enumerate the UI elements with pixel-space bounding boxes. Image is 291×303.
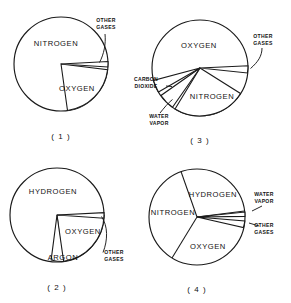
pie-3-callout-water-line1: WATER: [149, 113, 169, 119]
pie-3-leader-other-gases: [251, 48, 263, 69]
pie-4-label-nitrogen: NITROGEN: [151, 208, 195, 217]
pie-3-caption: ( 3 ): [190, 136, 210, 145]
pie-panel-1: NITROGEN OXYGEN OTHER GASES ( 1 ): [14, 17, 116, 141]
pie-2-label-argon: ARGON: [48, 253, 79, 262]
pie-2-callout-other-line2: GASES: [104, 256, 124, 262]
pie-2-label-oxygen: OXYGEN: [65, 227, 101, 236]
pie-4-callout-water-line1: WATER: [254, 191, 274, 197]
pie-4-caption: ( 4 ): [187, 285, 207, 294]
pie-1-callout-other-line2: GASES: [96, 24, 116, 30]
pie-2-callout-other-line1: OTHER: [104, 249, 123, 255]
pie-3-callout-water-line2: VAPOR: [149, 120, 168, 126]
pie-4-leader-water-vapor: [252, 206, 262, 211]
pie-3-leader-carbon-dioxide: [166, 86, 172, 87]
pie-3-callout-carbon-line2: DIOXIDE: [134, 83, 157, 89]
pie-3-callout-other-line2: GASES: [253, 40, 273, 46]
pie-1-label-nitrogen: NITROGEN: [34, 39, 78, 48]
pie-3-callout-other-line1: OTHER: [253, 33, 272, 39]
pie-2-label-hydrogen: HYDROGEN: [29, 187, 77, 196]
pie-panel-4: NITROGEN HYDROGEN OXYGEN WATER VAPOR OTH…: [149, 169, 274, 294]
pie-chart-figure: NITROGEN OXYGEN OTHER GASES ( 1 ) HYDROG…: [0, 0, 291, 303]
pie-4-label-oxygen: OXYGEN: [190, 242, 226, 251]
pie-4-label-hydrogen: HYDROGEN: [189, 190, 237, 199]
pie-3-label-nitrogen: NITROGEN: [190, 92, 234, 101]
pie-4-callout-other-line1: OTHER: [254, 222, 273, 228]
pie-2-caption: ( 2 ): [47, 283, 67, 292]
pie-1-label-oxygen: OXYGEN: [59, 84, 95, 93]
pie-1-caption: ( 1 ): [51, 132, 71, 141]
pie-panel-2: HYDROGEN OXYGEN ARGON OTHER GASES ( 2 ): [10, 168, 124, 292]
pie-3-callout-carbon-line1: CARBON: [134, 76, 158, 82]
pie-panel-3: OXYGEN NITROGEN CARBON DIOXIDE WATER VAP…: [134, 20, 273, 145]
pie-1-callout-other-line1: OTHER: [96, 17, 115, 23]
pie-4-callout-other-line2: GASES: [254, 229, 274, 235]
pie-3-label-oxygen: OXYGEN: [181, 41, 217, 50]
pie-4-callout-water-line2: VAPOR: [254, 198, 273, 204]
